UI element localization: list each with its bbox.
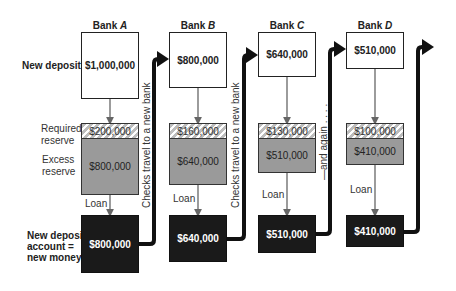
- bank-c-deposit-box: $640,000: [258, 32, 316, 77]
- bank-a-reserve-box: $200,000 $800,000: [81, 123, 139, 195]
- bank-d-title: Bank D: [346, 20, 404, 31]
- bank-a-title: Bank A: [81, 20, 139, 31]
- excess-reserve-label-line1: Excess: [42, 154, 75, 166]
- bank-a-excess-reserve: $800,000: [82, 139, 138, 194]
- new-deposit-account-line1: New deposit: [27, 230, 86, 241]
- bank-d-required-reserve: $100,000: [347, 124, 403, 139]
- required-reserve-label-line1: Required: [41, 123, 82, 135]
- checks-travel-text-1: Checks travel to a new bank: [141, 82, 152, 208]
- bank-b-deposit-box: $800,000: [169, 32, 227, 88]
- bank-b-excess-reserve: $640,000: [170, 139, 226, 184]
- new-deposit-account-line3: new money: [27, 252, 86, 263]
- and-again-text: —and again . . . .: [318, 104, 329, 180]
- excess-reserve-label-line2: reserve: [42, 166, 75, 178]
- bank-b-required-reserve: $160,000: [170, 124, 226, 139]
- new-deposit-account-line2: account =: [27, 241, 86, 252]
- new-deposits-label: New deposits: [22, 60, 86, 71]
- bank-c-new-deposit-box: $510,000: [258, 215, 316, 253]
- required-reserve-label: Required reserve: [41, 123, 82, 147]
- bank-a-loan-label: Loan: [85, 198, 107, 210]
- bank-d-reserve-box: $100,000 $410,000: [346, 123, 404, 165]
- bank-d-excess-reserve: $410,000: [347, 139, 403, 164]
- bank-a-deposit-box: $1,000,000: [81, 32, 139, 99]
- bank-d-new-deposit-box: $410,000: [346, 215, 404, 247]
- bank-c-excess-reserve: $510,000: [259, 139, 315, 172]
- bank-d-loan-label: Loan: [350, 184, 372, 196]
- bank-a-new-deposit-box: $800,000: [81, 215, 139, 273]
- bank-b-title: Bank B: [169, 20, 227, 31]
- new-deposit-account-label: New deposit account = new money: [27, 230, 86, 263]
- bank-c-title: Bank C: [258, 20, 316, 31]
- checks-travel-text-2: Checks travel to a new bank: [230, 82, 241, 208]
- bank-b-reserve-box: $160,000 $640,000: [169, 123, 227, 185]
- bank-d-deposit-box: $510,000: [346, 32, 404, 69]
- bank-a-required-reserve: $200,000: [82, 124, 138, 139]
- required-reserve-label-line2: reserve: [41, 135, 82, 147]
- bank-c-loan-label: Loan: [262, 189, 284, 201]
- bank-c-reserve-box: $130,000 $510,000: [258, 123, 316, 173]
- excess-reserve-label: Excess reserve: [42, 154, 75, 178]
- bank-b-new-deposit-box: $640,000: [169, 215, 227, 262]
- bank-c-required-reserve: $130,000: [259, 124, 315, 139]
- bank-b-loan-label: Loan: [173, 193, 195, 205]
